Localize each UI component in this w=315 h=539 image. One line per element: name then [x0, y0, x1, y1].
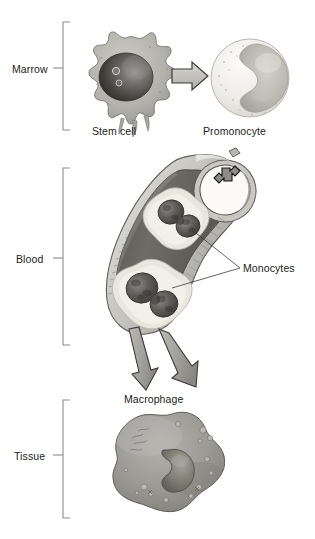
macrophage-illustration	[113, 412, 228, 511]
diagram-figure: Marrow Blood Tissue Stem cell Promonocyt…	[0, 0, 315, 539]
stage-label-marrow: Marrow	[12, 64, 48, 75]
promonocyte-illustration	[211, 39, 289, 117]
tissue-bracket	[53, 400, 70, 518]
cell-label-macrophage: Macrophage	[124, 394, 183, 405]
marrow-bracket	[53, 22, 70, 130]
stem-cell-illustration	[89, 32, 175, 137]
vessel-exit-arrow-right	[159, 329, 198, 387]
cell-label-stem-cell: Stem cell	[92, 126, 136, 137]
stage-label-blood: Blood	[16, 254, 43, 265]
cell-label-monocytes: Monocytes	[243, 263, 295, 274]
stage-label-tissue: Tissue	[14, 451, 45, 462]
cell-label-promonocyte: Promonocyte	[203, 126, 266, 137]
stem-to-promonocyte-arrow	[172, 62, 208, 90]
blood-bracket	[53, 168, 70, 345]
vessel-exit-arrow-left	[129, 327, 158, 390]
